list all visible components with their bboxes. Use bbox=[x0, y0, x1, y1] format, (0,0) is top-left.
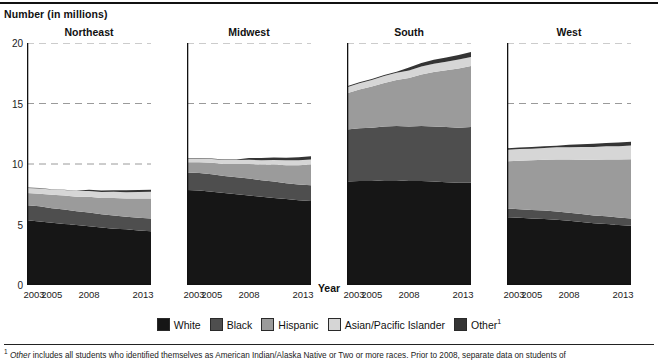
panel-northeast: Northeast051015202003200520082013 bbox=[7, 26, 157, 304]
panel-title-south: South bbox=[347, 26, 471, 38]
legend-item-hispanic[interactable]: Hispanic bbox=[261, 318, 318, 331]
y-tick-label-15: 15 bbox=[12, 98, 23, 109]
panel-title-northeast: Northeast bbox=[27, 26, 151, 38]
area-white bbox=[187, 190, 311, 285]
area-white bbox=[27, 220, 151, 285]
area-chart-midwest bbox=[187, 43, 311, 285]
legend-label: Black bbox=[227, 319, 253, 331]
legend-swatch-icon bbox=[454, 318, 467, 331]
top-divider bbox=[0, 2, 658, 4]
panel-midwest: Midwest2003200520082013 bbox=[167, 26, 317, 304]
legend-label: Asian/Pacific Islander bbox=[345, 319, 445, 331]
footnote-text: includes all students who identified the… bbox=[30, 351, 566, 360]
area-black bbox=[347, 126, 471, 183]
panel-title-midwest: Midwest bbox=[187, 26, 311, 38]
legend-swatch-icon bbox=[261, 318, 274, 331]
area-white bbox=[507, 217, 631, 285]
legend-label: White bbox=[174, 319, 201, 331]
footnote-divider bbox=[4, 344, 654, 345]
x-axis-title: Year bbox=[0, 282, 658, 294]
legend-label: Hispanic bbox=[278, 319, 318, 331]
legend-swatch-icon bbox=[157, 318, 170, 331]
legend-footnote-marker: 1 bbox=[497, 318, 501, 325]
plot-area-midwest: 2003200520082013 bbox=[187, 43, 311, 285]
plot-area-south: 2003200520082013 bbox=[347, 43, 471, 285]
panel-title-west: West bbox=[507, 26, 631, 38]
area-chart-south bbox=[347, 43, 471, 285]
chart-panels: Northeast051015202003200520082013Midwest… bbox=[0, 26, 658, 304]
area-white bbox=[347, 180, 471, 285]
legend-label: Other1 bbox=[471, 318, 501, 331]
legend-item-white[interactable]: White bbox=[157, 318, 201, 331]
area-chart-west bbox=[507, 43, 631, 285]
legend-swatch-icon bbox=[328, 318, 341, 331]
y-tick-label-10: 10 bbox=[12, 159, 23, 170]
footnote: 1 Other includes all students who identi… bbox=[4, 348, 654, 361]
y-tick-label-5: 5 bbox=[17, 219, 23, 230]
panel-west: West2003200520082013 bbox=[487, 26, 637, 304]
legend-swatch-icon bbox=[210, 318, 223, 331]
plot-area-west: 2003200520082013 bbox=[507, 43, 631, 285]
panel-south: South2003200520082013 bbox=[327, 26, 477, 304]
footnote-lead: Other bbox=[10, 351, 30, 360]
chart-legend: WhiteBlackHispanicAsian/Pacific Islander… bbox=[0, 318, 658, 331]
legend-item-other[interactable]: Other1 bbox=[454, 318, 501, 331]
footnote-marker: 1 bbox=[4, 348, 8, 355]
legend-item-black[interactable]: Black bbox=[210, 318, 253, 331]
plot-area-northeast: 051015202003200520082013 bbox=[27, 43, 151, 285]
area-chart-northeast bbox=[27, 43, 151, 285]
legend-item-asian-pacific-islander[interactable]: Asian/Pacific Islander bbox=[328, 318, 445, 331]
y-tick-label-20: 20 bbox=[12, 38, 23, 49]
y-axis-title: Number (in millions) bbox=[4, 8, 108, 20]
